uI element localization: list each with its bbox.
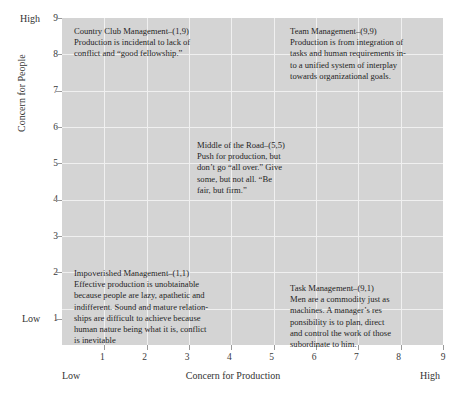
- cell-impoverished-management: Impoverished Management–(1,1) Effective …: [74, 268, 274, 346]
- x-tick-7: 7: [348, 352, 364, 362]
- x-tick-4: 4: [221, 352, 237, 362]
- y-tickmark-7: [56, 91, 62, 92]
- cell-team-management: Team Management–(9,9) Production is from…: [290, 26, 450, 82]
- x-axis-high-label: High: [420, 370, 440, 381]
- gridline-y-7: [62, 91, 443, 92]
- managerial-grid-figure: 9 8 7 6 5 4 3 2 1 1 2 3 4 5 6 7 8 9 Conc…: [0, 0, 466, 405]
- y-tickmark-6: [56, 127, 62, 128]
- y-axis-low-label: Low: [22, 313, 40, 324]
- y-tickmark-1: [56, 319, 62, 320]
- y-tick-6: 6: [38, 122, 58, 132]
- y-tick-9: 9: [38, 13, 58, 23]
- y-tick-8: 8: [38, 49, 58, 59]
- y-tickmark-8: [56, 54, 62, 55]
- y-tick-7: 7: [38, 85, 58, 95]
- gridline-y-4: [62, 200, 443, 201]
- y-tick-3: 3: [38, 231, 58, 241]
- y-axis-high-label: High: [20, 13, 40, 24]
- x-tick-3: 3: [179, 352, 195, 362]
- gridline-y-6: [62, 127, 443, 128]
- x-tick-9: 9: [435, 352, 451, 362]
- x-tick-6: 6: [306, 352, 322, 362]
- y-axis-title: Concern for People: [16, 54, 27, 132]
- y-tickmark-2: [56, 272, 62, 273]
- y-tickmark-3: [56, 236, 62, 237]
- gridline-y-3: [62, 236, 443, 237]
- x-tick-2: 2: [137, 352, 153, 362]
- y-tickmark-9: [56, 18, 62, 19]
- cell-middle-of-the-road: Middle of the Road–(5,5) Push for produc…: [197, 140, 327, 196]
- y-tick-2: 2: [38, 267, 58, 277]
- x-axis-low-label: Low: [62, 370, 80, 381]
- cell-country-club-management: Country Club Management–(1,9) Production…: [74, 26, 264, 60]
- cell-task-management: Task Management–(9,1) Men are a commodit…: [290, 283, 450, 350]
- x-tick-1: 1: [94, 352, 110, 362]
- y-tickmark-4: [56, 200, 62, 201]
- y-tick-1: 1: [38, 313, 58, 323]
- y-tick-4: 4: [38, 194, 58, 204]
- x-tick-8: 8: [391, 352, 407, 362]
- y-tickmark-5: [56, 163, 62, 164]
- x-tick-5: 5: [264, 352, 280, 362]
- y-tick-5: 5: [38, 158, 58, 168]
